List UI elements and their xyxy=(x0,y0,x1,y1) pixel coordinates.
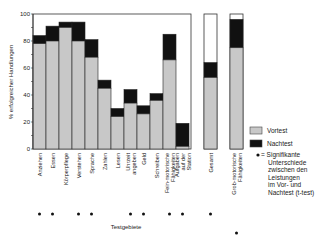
bar-vortest xyxy=(111,117,124,149)
legend-label: Nachtest xyxy=(267,140,293,147)
legend-note-line: im Vor- und xyxy=(268,181,302,188)
x-tick-label: Sprache xyxy=(89,153,95,174)
significance-dot xyxy=(77,213,80,216)
bar-vortest xyxy=(124,103,137,149)
x-tick-label: Gesamt xyxy=(208,153,214,173)
y-tick-label: 60 xyxy=(23,65,30,71)
bar-vortest xyxy=(204,77,217,149)
significance-dot xyxy=(181,213,184,216)
bar-vortest xyxy=(98,88,111,149)
x-tick-label: Station xyxy=(186,153,192,170)
bar-nachtest xyxy=(85,40,98,58)
x-tick-label: angeben xyxy=(131,153,137,175)
bar-vortest xyxy=(163,60,176,149)
bar-nachtest xyxy=(124,90,137,104)
x-tick-label: Zahlen xyxy=(102,153,108,170)
legend-swatch xyxy=(250,140,262,147)
bar-nachtest xyxy=(204,63,217,78)
x-tick-label: Schreiben xyxy=(154,153,160,178)
legend-significance-dot xyxy=(256,153,259,156)
bar-nachtest xyxy=(137,106,150,114)
y-tick-label: 0 xyxy=(27,146,31,152)
x-tick-label: Anziehen xyxy=(37,153,43,176)
y-tick-label: 40 xyxy=(23,92,30,98)
legend-note-line: Nachtest (t-test) xyxy=(268,189,314,197)
bar-vortest xyxy=(85,57,98,149)
bar-vortest xyxy=(230,48,243,149)
bar-vortest xyxy=(176,146,189,149)
legend-note-line: Unterschiede xyxy=(268,159,307,166)
chart: 020406080100 AnziehenEssenKörperpflegeVe… xyxy=(0,0,328,238)
significance-dot xyxy=(129,213,132,216)
bar-nachtest xyxy=(33,36,46,44)
legend-swatch xyxy=(250,127,262,134)
bar-vortest xyxy=(59,28,72,150)
bar-vortest xyxy=(46,41,59,149)
bar-nachtest xyxy=(163,34,176,60)
bar-nachtest xyxy=(46,26,59,41)
y-tick-label: 80 xyxy=(23,38,30,44)
x-tick-label: Geld xyxy=(141,153,147,165)
x-tick-label: Verstehen xyxy=(76,153,82,178)
bar-nachtest xyxy=(230,19,243,47)
bar-nachtest xyxy=(176,123,189,146)
bar-vortest xyxy=(33,44,46,149)
x-tick-label: Lesen xyxy=(115,153,121,168)
significance-dot xyxy=(51,213,54,216)
legend-note-line: zwischen den xyxy=(268,166,308,173)
significance-dot xyxy=(168,213,171,216)
y-tick-label: 20 xyxy=(23,119,30,125)
x-tick-label: Essen xyxy=(50,153,56,169)
bar-nachtest xyxy=(111,109,124,117)
bar-nachtest xyxy=(98,80,111,88)
significance-dot xyxy=(90,213,93,216)
legend-label: Vortest xyxy=(267,127,287,134)
bar-vortest xyxy=(150,100,163,149)
significance-dot xyxy=(142,213,145,216)
bar-nachtest xyxy=(59,22,72,27)
x-tick-label: Körperpflege xyxy=(63,153,69,185)
significance-dot xyxy=(235,232,238,235)
x-tick-label: Fähigkeiten xyxy=(237,153,243,182)
bar-vortest xyxy=(137,114,150,149)
bar-vortest xyxy=(72,41,85,149)
y-tick-label: 100 xyxy=(20,11,31,17)
y-axis-title: % erfolgreicher Handlungen xyxy=(8,45,14,119)
significance-dot xyxy=(209,213,212,216)
significance-dot xyxy=(38,213,41,216)
x-axis-title: Testgebiete xyxy=(111,224,142,230)
bar-nachtest xyxy=(150,94,163,101)
bar-nachtest xyxy=(72,22,85,41)
